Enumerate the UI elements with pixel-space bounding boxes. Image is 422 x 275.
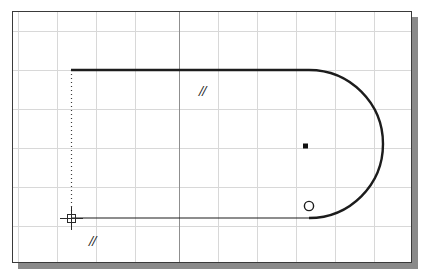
- drawing-window[interactable]: // //: [12, 11, 412, 263]
- cad-screenshot-root: // //: [0, 0, 422, 275]
- slot-arc-edge[interactable]: [309, 70, 383, 218]
- osnap-center-marker: [304, 201, 313, 210]
- grid-horizontal-lines: [13, 32, 412, 227]
- center-point-marker: [303, 144, 308, 149]
- drawing-canvas[interactable]: // //: [13, 12, 411, 262]
- parallel-mark-bottom: //: [89, 234, 95, 249]
- parallel-mark-top: //: [199, 84, 205, 99]
- drawing-canvas-svg[interactable]: [13, 12, 412, 263]
